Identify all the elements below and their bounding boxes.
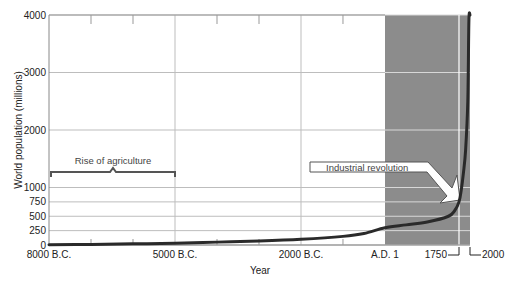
x-tick-label: 1750 [425,249,448,260]
x-tick-label: A.D. 1 [371,249,399,260]
y-tick-label: 4000 [24,10,47,21]
agriculture-label: Rise of agriculture [75,155,152,166]
y-tick-label: 250 [29,225,46,236]
y-tick-label: 3000 [24,67,47,78]
leader-1750 [448,247,459,255]
y-tick-label: 2000 [24,125,47,136]
agriculture-bracket [51,168,175,177]
x-tick-label: 8000 B.C. [27,249,71,260]
y-tick-label: 500 [29,211,46,222]
x-axis-title: Year [250,265,271,276]
y-axis-title: World population (millions) [13,71,24,189]
population-chart: Rise of agricultureIndustrial revolution… [0,0,509,283]
x-tick-label: 2000 B.C. [279,249,323,260]
y-tick-label: 750 [29,196,46,207]
x-tick-label: 5000 B.C. [153,249,197,260]
industrial-label: Industrial revolution [326,162,408,173]
y-tick-label: 1000 [24,182,47,193]
x-tick-label: 2000 [482,249,505,260]
leader-2000 [470,247,481,255]
